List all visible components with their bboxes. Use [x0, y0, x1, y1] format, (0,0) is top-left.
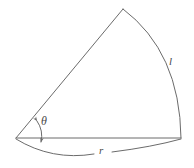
radius-measure-arc-left	[16, 139, 94, 156]
radius-measure-arc-right	[112, 139, 181, 152]
radius-r-label: r	[99, 145, 103, 156]
angle-theta-label: θ	[41, 115, 47, 127]
arc-length-l-label: l	[169, 56, 172, 67]
sector-diagram-canvas	[0, 0, 194, 168]
upper-radius-line	[16, 9, 123, 138]
outer-arc	[123, 9, 181, 138]
sector-diagram-figure: θ l r	[0, 0, 194, 168]
